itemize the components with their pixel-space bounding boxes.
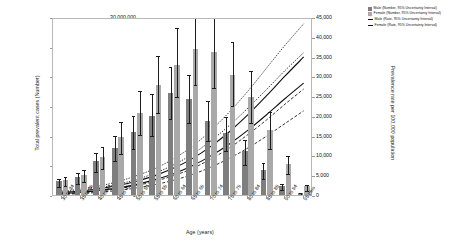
error-bar-line xyxy=(288,156,289,174)
error-bar-cap xyxy=(119,122,123,123)
x-tick-mark xyxy=(266,196,267,199)
x-tick-mark xyxy=(284,196,285,199)
y-tick-mark-right xyxy=(312,38,315,39)
error-bar-cap xyxy=(262,163,266,164)
y-tick-label-right: 5,000 xyxy=(316,173,376,178)
y-tick-mark-right xyxy=(312,156,315,157)
error-bar-cap xyxy=(82,182,86,183)
error-bar-cap xyxy=(156,56,160,57)
error-bar-line xyxy=(152,94,153,136)
error-bar-cap xyxy=(138,135,142,136)
error-bar-line xyxy=(226,117,227,151)
error-bar-cap xyxy=(132,149,136,150)
error-bar-line xyxy=(270,112,271,149)
error-bar-cap xyxy=(94,172,98,173)
y-tick-label-right: 35,000 xyxy=(316,55,376,60)
error-bar-cap xyxy=(305,185,309,186)
y-tick-label-right: 45,000 xyxy=(316,15,376,20)
error-bar-cap xyxy=(286,156,290,157)
error-bar-cap xyxy=(150,136,154,137)
error-bar-cap xyxy=(280,184,284,185)
error-bar-cap xyxy=(175,97,179,98)
y-tick-mark-right xyxy=(312,137,315,138)
error-bar-cap xyxy=(169,119,173,120)
x-tick-mark xyxy=(247,196,248,199)
y-axis-title-right: Prevalence rate per 100,000 population xyxy=(390,38,396,188)
error-bar-line xyxy=(195,19,196,85)
y-tick-mark-right xyxy=(312,196,315,197)
error-bar-cap xyxy=(224,117,228,118)
error-bar-line xyxy=(115,136,116,162)
legend: Male (Number, 95% Uncertainty Interval)F… xyxy=(368,6,451,28)
error-bar-cap xyxy=(76,184,80,185)
y-axis-title-left: Total prevalent cases (Number) xyxy=(34,38,40,188)
error-bar-cap xyxy=(119,154,123,155)
error-bar-cap xyxy=(268,149,272,150)
error-bar-cap xyxy=(101,147,105,148)
error-bar-cap xyxy=(231,42,235,43)
legend-label: Female (Rate, 95% Uncertainty Interval) xyxy=(375,24,437,28)
legend-label: Male (Rate, 95% Uncertainty Interval) xyxy=(375,18,433,22)
error-bar-line xyxy=(208,101,209,141)
error-bar-cap xyxy=(243,165,247,166)
error-bar-line xyxy=(263,163,264,178)
x-tick-mark xyxy=(117,196,118,199)
chart-figure: Total prevalent cases (Number) Prevalenc… xyxy=(0,0,451,246)
error-bar-line xyxy=(121,122,122,153)
error-bar-line xyxy=(140,91,141,135)
error-bar-cap xyxy=(113,136,117,137)
error-bar-cap xyxy=(231,106,235,107)
y-tick-label-right: 10,000 xyxy=(316,153,376,158)
error-bar-cap xyxy=(169,67,173,68)
error-bar-cap xyxy=(150,94,154,95)
error-bar-cap xyxy=(299,193,303,194)
error-bar-cap xyxy=(138,91,142,92)
y-tick-label-right: 20,000 xyxy=(316,114,376,119)
error-bar-cap xyxy=(187,75,191,76)
error-bar-cap xyxy=(64,177,68,178)
error-bar-line xyxy=(171,67,172,119)
y-tick-label-right: 15,000 xyxy=(316,134,376,139)
x-axis-title: Age (years) xyxy=(0,229,400,235)
error-bar-cap xyxy=(212,88,216,89)
error-bar-cap xyxy=(194,85,198,86)
y-tick-label-right: 40,000 xyxy=(316,35,376,40)
error-bar-cap xyxy=(243,140,247,141)
error-bar-cap xyxy=(57,179,61,180)
error-bar-line xyxy=(133,116,134,149)
error-bar-line xyxy=(59,179,60,187)
legend-line-marker xyxy=(368,25,373,26)
x-tick-mark xyxy=(303,196,304,199)
error-bar-line xyxy=(177,28,178,97)
legend-swatch-marker xyxy=(368,7,372,11)
error-bar-cap xyxy=(57,187,61,188)
x-tick-mark xyxy=(191,196,192,199)
x-tick-mark xyxy=(154,196,155,199)
error-bar-cap xyxy=(76,173,80,174)
error-bar-line xyxy=(158,56,159,113)
y-tick-label-right: 30,000 xyxy=(316,74,376,79)
error-bar-line xyxy=(84,170,85,182)
error-bar-line xyxy=(78,173,79,184)
y-tick-mark-left xyxy=(50,196,53,197)
x-tick-mark xyxy=(80,196,81,199)
error-bar-line xyxy=(103,147,104,169)
error-bar-line xyxy=(189,75,190,124)
y-tick-mark-right xyxy=(312,117,315,118)
error-bar-cap xyxy=(156,113,160,114)
x-tick-mark xyxy=(228,196,229,199)
legend-item: Male (Rate, 95% Uncertainty Interval) xyxy=(368,17,451,22)
error-bar-cap xyxy=(101,169,105,170)
legend-item: Female (Rate, 95% Uncertainty Interval) xyxy=(368,23,451,28)
error-bar-line xyxy=(245,140,246,165)
legend-label: Female (Number, 95% Uncertainty Interval… xyxy=(374,12,441,16)
error-bar-cap xyxy=(262,179,266,180)
x-tick-mark xyxy=(173,196,174,199)
legend-line-marker xyxy=(368,19,373,20)
error-bar-cap xyxy=(82,170,86,171)
error-bar-cap xyxy=(249,71,253,72)
error-bar-cap xyxy=(249,123,253,124)
error-bar-line xyxy=(251,71,252,124)
error-bar-cap xyxy=(175,28,179,29)
y-tick-mark-right xyxy=(312,97,315,98)
